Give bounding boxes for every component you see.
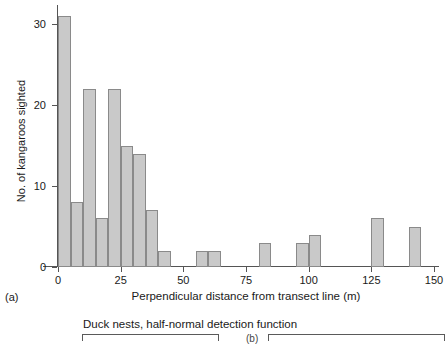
x-tick-label: 75 [226,274,266,286]
x-tick-label: 50 [163,274,203,286]
y-tick-mark [52,24,57,25]
panel-box-left [82,334,219,341]
x-tick-label: 100 [289,274,329,286]
histogram-bar [371,218,384,267]
histogram-bar [121,146,134,267]
x-tick-label: 0 [38,274,78,286]
panel-letter-a: (a) [5,291,18,303]
y-tick-mark [52,186,57,187]
histogram-bar [146,210,159,267]
x-tick-label: 25 [101,274,141,286]
x-tick-mark [183,267,184,272]
x-tick-mark [121,267,122,272]
histogram-bar [296,243,309,267]
y-axis-title: No. of kangaroos sighted [15,66,27,216]
histogram-bar [96,218,109,267]
histogram-bar [58,16,71,267]
x-axis-title: Perpendicular distance from transect lin… [58,290,434,302]
histogram-bar [259,243,272,267]
panel-box-right [268,334,445,341]
histogram-bar [83,89,96,267]
histogram-bar [309,235,322,267]
bottom-caption: Duck nests, half-normal detection functi… [83,318,297,330]
histogram-bar [108,89,121,267]
y-tick-mark [52,105,57,106]
x-tick-mark [434,267,435,272]
histogram-bar [196,251,209,267]
y-tick-label: 30 [0,18,46,30]
y-tick-mark [52,267,57,268]
y-tick-label: 0 [0,261,46,273]
histogram-bar [158,251,171,267]
x-tick-mark [309,267,310,272]
histogram-bar [133,154,146,267]
x-tick-mark [371,267,372,272]
histogram-bar [71,202,84,267]
x-tick-mark [246,267,247,272]
x-tick-label: 150 [414,274,445,286]
plot-area [58,8,434,267]
histogram-bar [409,227,422,267]
x-tick-label: 125 [351,274,391,286]
x-tick-mark [58,267,59,272]
histogram-bar [208,251,221,267]
panel-letter-b: (b) [246,333,258,344]
